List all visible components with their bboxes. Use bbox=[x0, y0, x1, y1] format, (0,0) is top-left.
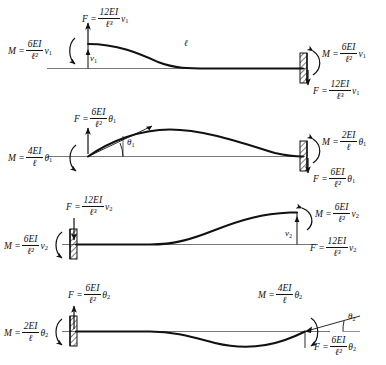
row-2-left-force-numerator: 6EI bbox=[90, 108, 108, 119]
row-3-displacement-arrowhead bbox=[295, 216, 300, 222]
row-2-rotation-label: θ1 bbox=[127, 138, 134, 148]
row-2-right-moment-denominator: ℓ bbox=[340, 142, 358, 153]
row-2-right-moment-prefix: M = bbox=[322, 137, 339, 147]
row-2-left-force-denominator: ℓ² bbox=[90, 119, 108, 130]
row-3-right-moment-label: M =6EIℓ²v2 bbox=[315, 203, 359, 225]
row-1-left-moment-arrow bbox=[70, 38, 75, 64]
row-3-right-moment-denominator: ℓ² bbox=[333, 214, 351, 225]
row-3-left-moment-arrow bbox=[56, 232, 62, 258]
row-1-right-moment-label: M =6EIℓ²v1 bbox=[322, 43, 366, 65]
row-2-right-moment-numerator: 2EI bbox=[340, 131, 358, 142]
row-4-right-force-denominator: ℓ² bbox=[330, 347, 348, 358]
row-1-left-force-label: F =12EIℓ³v1 bbox=[82, 8, 129, 30]
row-4-rotation-label: θ2 bbox=[348, 312, 355, 322]
row-1-right-force-label: F =12EIℓ³v1 bbox=[313, 80, 360, 102]
row-4-right-force-tail-sub: 2 bbox=[353, 345, 356, 352]
row-2-left-moment-denominator: ℓ bbox=[26, 158, 44, 169]
row-3-right-moment-numerator: 6EI bbox=[333, 203, 351, 214]
row-3-left-moment-label: M =6EIℓ²v2 bbox=[4, 235, 48, 257]
row-4-left-force-denominator: ℓ² bbox=[84, 295, 102, 306]
row-4-left-moment-label: M =2EIℓθ2 bbox=[4, 322, 48, 344]
row-2-left-force-prefix: F = bbox=[74, 114, 89, 124]
row-4-angle-arc bbox=[343, 321, 344, 332]
row-1-right-moment-prefix: M = bbox=[322, 49, 339, 59]
row-3-left-force-numerator: 12EI bbox=[82, 196, 104, 207]
row-2-left-moment-prefix: M = bbox=[8, 153, 25, 163]
row-3-right-force-label: F =12EIℓ³v2 bbox=[310, 237, 357, 259]
row-2-left-moment-numerator: 4EI bbox=[26, 147, 44, 158]
row-1-right-moment-arrow bbox=[313, 51, 320, 75]
row-1-right-force-tail-sub: 1 bbox=[356, 89, 359, 96]
row-1-left-moment-label: M =6EIℓ²v1 bbox=[8, 40, 52, 62]
row-4-right-moment-label: M =4EIℓθ2 bbox=[258, 284, 302, 306]
row-3-left-force-label: F =12EIℓ³v2 bbox=[66, 196, 113, 218]
row-1-right-moment-tail-sub: 1 bbox=[363, 52, 366, 59]
row-2-left-moment-label: M =4EIℓθ1 bbox=[8, 147, 52, 169]
row-3-left-force-denominator: ℓ³ bbox=[82, 207, 104, 218]
row-3-right-force-numerator: 12EI bbox=[326, 237, 348, 248]
row-1-right-moment-numerator: 6EI bbox=[340, 43, 358, 54]
row-3-left-moment-numerator: 6EI bbox=[22, 235, 40, 246]
row-2-right-force-denominator: ℓ² bbox=[329, 179, 347, 190]
row-1-left-force-prefix: F = bbox=[82, 14, 97, 24]
row-4-right-force-numerator: 6EI bbox=[330, 336, 348, 347]
row-1-left-moment-numerator: 6EI bbox=[26, 40, 44, 51]
row-3-right-moment-tail-sub: 2 bbox=[356, 212, 359, 219]
row-2-left-force-tail-sub: 1 bbox=[113, 117, 116, 124]
row-3-displacement-label: v2 bbox=[285, 229, 292, 239]
row-3-left-moment-tail-sub: 2 bbox=[45, 244, 48, 251]
row-1-displacement-sub: 1 bbox=[94, 58, 97, 64]
row-3-left-moment-prefix: M = bbox=[4, 241, 21, 251]
row-3-right-moment-prefix: M = bbox=[315, 209, 332, 219]
row-1-length-label: ℓ bbox=[184, 39, 188, 48]
row-3-displacement-sub: 2 bbox=[289, 233, 292, 239]
row-2-fixed-support bbox=[300, 141, 307, 171]
row-4-rotation-arrowhead bbox=[305, 327, 312, 334]
row-1-left-force-tail-sub: 1 bbox=[125, 17, 128, 24]
row-4-left-moment-denominator: ℓ bbox=[22, 333, 40, 344]
row-1-left-force-denominator: ℓ³ bbox=[98, 19, 120, 30]
row-2-right-force-label: F =6EIℓ²θ1 bbox=[313, 168, 355, 190]
row-1-left-force-numerator: 12EI bbox=[98, 8, 120, 19]
row-2-angle-arc bbox=[120, 143, 123, 157]
row-4-right-force-prefix: F = bbox=[314, 342, 329, 352]
row-4-left-force-numerator: 6EI bbox=[84, 284, 102, 295]
row-4-right-moment-tail-sub: 2 bbox=[299, 293, 302, 300]
row-3-right-force-tail-sub: 2 bbox=[353, 246, 356, 253]
row-3-left-force-prefix: F = bbox=[66, 202, 81, 212]
row-2-right-force-prefix: F = bbox=[313, 174, 328, 184]
row-1-displacement-label: v1 bbox=[90, 54, 97, 64]
row-2-right-force-tail-sub: 1 bbox=[352, 177, 355, 184]
row-1-right-moment-denominator: ℓ² bbox=[340, 54, 358, 65]
row-3-left-force-tail-sub: 2 bbox=[109, 205, 112, 212]
row-2-tangent-line bbox=[88, 126, 152, 157]
row-1-left-moment-prefix: M = bbox=[8, 46, 25, 56]
row-2-right-moment-label: M =2EIℓθ1 bbox=[322, 131, 366, 153]
row-1-left-moment-denominator: ℓ² bbox=[26, 51, 44, 62]
row-1-right-force-numerator: 12EI bbox=[329, 80, 351, 91]
row-2-right-moment-arrow bbox=[313, 139, 320, 163]
row-4-right-moment-numerator: 4EI bbox=[276, 284, 294, 295]
figure-canvas: M =6EIℓ²v1 F =12EIℓ³v1 v1 ℓ M =6EIℓ²v1 F… bbox=[0, 0, 386, 365]
row-1-graphics bbox=[47, 23, 320, 85]
row-2-right-moment-tail-sub: 1 bbox=[363, 140, 366, 147]
row-3-left-moment-denominator: ℓ² bbox=[22, 246, 40, 257]
row-1-right-force-denominator: ℓ³ bbox=[329, 91, 351, 102]
row-4-left-moment-arrow bbox=[56, 319, 62, 345]
row-1-deflected-beam bbox=[88, 44, 303, 69]
row-4-rotation-sub: 2 bbox=[352, 316, 355, 322]
row-2-right-force-numerator: 6EI bbox=[329, 168, 347, 179]
row-4-left-moment-tail-sub: 2 bbox=[45, 331, 48, 338]
row-4-deflected-beam bbox=[76, 332, 305, 347]
row-4-left-force-prefix: F = bbox=[68, 290, 83, 300]
row-4-left-moment-prefix: M = bbox=[4, 328, 21, 338]
row-3-right-force-prefix: F = bbox=[310, 243, 325, 253]
row-2-rotation-sub: 1 bbox=[131, 142, 134, 148]
row-4-left-moment-numerator: 2EI bbox=[22, 322, 40, 333]
row-1-right-force-prefix: F = bbox=[313, 86, 328, 96]
row-1-fixed-support bbox=[300, 53, 307, 83]
row-4-left-force-tail-sub: 2 bbox=[107, 293, 110, 300]
row-3-right-moment-arrow bbox=[302, 208, 312, 230]
row-4-right-moment-denominator: ℓ bbox=[276, 295, 294, 306]
row-4-right-force-label: F =6EIℓ²θ2 bbox=[314, 336, 356, 358]
